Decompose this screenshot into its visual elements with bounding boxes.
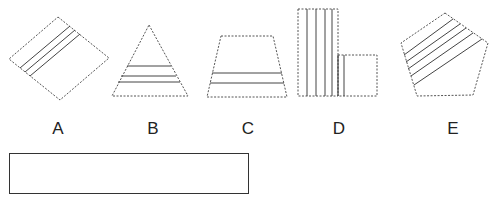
shape-a-stripe: [30, 34, 80, 76]
shape-e-stripe: [414, 39, 482, 85]
answer-box[interactable]: [9, 153, 249, 194]
shape-d[interactable]: [298, 9, 377, 96]
shape-a-outline: [9, 17, 109, 100]
shape-e-stripe: [404, 19, 453, 55]
option-label-b: B: [147, 119, 158, 139]
shape-e[interactable]: [401, 13, 488, 96]
shape-c-outline: [207, 36, 287, 97]
shape-a-stripe: [20, 26, 70, 68]
option-label-d: D: [333, 119, 345, 139]
shape-a-stripe: [25, 30, 75, 72]
shape-b[interactable]: [112, 25, 188, 96]
option-label-a: A: [52, 119, 63, 139]
shape-e-stripe: [406, 24, 460, 62]
option-label-e: E: [447, 119, 458, 139]
shape-e-stripe: [411, 33, 473, 76]
option-label-c: C: [242, 119, 254, 139]
shape-a[interactable]: [9, 17, 109, 100]
shape-c[interactable]: [207, 36, 287, 97]
shape-b-outline: [112, 25, 188, 96]
shape-e-stripe: [408, 28, 466, 69]
